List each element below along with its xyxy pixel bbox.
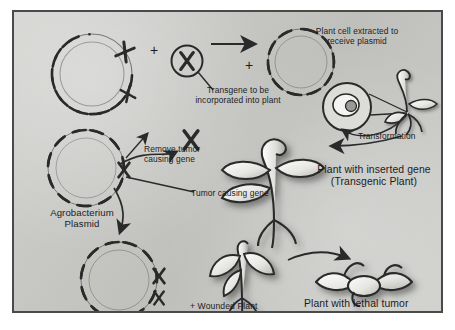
label-remove-tumor: Remove tumor causing gene xyxy=(144,145,200,165)
label-wounded-plant: + Wounded Plant xyxy=(190,302,258,312)
seedling-icon xyxy=(385,70,437,135)
label-transformation: Transformation xyxy=(358,132,415,142)
label-agrobacterium-plasmid: Agrobacterium Plasmid xyxy=(30,207,134,229)
figure-stage: + + Transgene to be incorporated into pl… xyxy=(0,0,455,330)
plant-cell-nucleus-icon xyxy=(323,83,371,131)
label-tumor-gene: Tumor causing gene xyxy=(191,189,269,199)
chromosome-icon xyxy=(172,46,203,77)
diagram-artwork xyxy=(14,12,443,313)
leader-line-tumor-gene xyxy=(126,177,194,192)
arrow-icon xyxy=(288,252,348,260)
plasmid-dna-circle-icon xyxy=(75,236,164,313)
label-transgene: Transgene to be incorporated into plant xyxy=(178,86,298,106)
label-transgenic-plant: Plant with inserted gene (Transgenic Pla… xyxy=(302,164,443,188)
label-plus-right: + xyxy=(245,57,253,73)
plasmid-dna-circle-icon xyxy=(42,124,130,212)
leader-line-cell-a xyxy=(369,94,407,112)
diagram-frame: + + Transgene to be incorporated into pl… xyxy=(12,10,443,313)
plasmid-dna-circle-icon xyxy=(43,27,140,122)
label-lethal-tumor: Plant with lethal tumor xyxy=(304,298,409,310)
label-plant-cell: Plant cell extracted to receive plasmid xyxy=(292,27,422,47)
label-plus-top: + xyxy=(150,42,158,58)
